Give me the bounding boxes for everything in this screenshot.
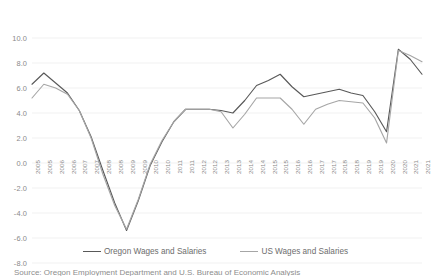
x-tick-label: 2018 <box>353 160 360 174</box>
y-axis: 10.08.06.04.02.00.0-2.0-4.0-6.0-8.0 <box>0 38 30 263</box>
legend-label: Oregon Wages and Salaries <box>104 247 207 256</box>
y-tick-label: 0.0 <box>16 159 27 168</box>
legend-swatch <box>240 251 258 252</box>
y-tick-label: 4.0 <box>16 109 27 118</box>
caption-strip: Source: Oregon Employment Department and… <box>0 269 431 276</box>
x-tick-label: 2012 <box>211 160 218 174</box>
x-tick-label: 2020 <box>401 160 408 174</box>
x-tick-label: 2016 <box>294 160 301 174</box>
x-tick-label: 2016 <box>306 160 313 174</box>
x-axis: 2005200520062006200720072008200820092009… <box>32 160 422 200</box>
series-lines <box>32 38 422 263</box>
x-tick-label: 2020 <box>389 160 396 174</box>
x-tick-label: 2005 <box>46 160 53 174</box>
y-tick-label: -8.0 <box>14 259 27 268</box>
x-tick-label: 2009 <box>141 160 148 174</box>
source-caption: Source: Oregon Employment Department and… <box>14 269 300 276</box>
x-tick-label: 2008 <box>117 160 124 174</box>
x-tick-label: 2010 <box>152 160 159 174</box>
series-line <box>32 51 422 230</box>
x-tick-label: 2021 <box>412 160 419 174</box>
x-tick-label: 2011 <box>176 160 183 174</box>
line-chart: 10.08.06.04.02.00.0-2.0-4.0-6.0-8.0 2005… <box>0 0 431 276</box>
y-tick-label: 8.0 <box>16 59 27 68</box>
x-tick-label: 2018 <box>341 160 348 174</box>
x-tick-label: 2011 <box>188 160 195 174</box>
x-tick-label: 2012 <box>200 160 207 174</box>
x-tick-label: 2007 <box>81 160 88 174</box>
x-tick-label: 2014 <box>247 160 254 174</box>
legend-label: US Wages and Salaries <box>261 247 348 256</box>
x-tick-label: 2017 <box>318 160 325 174</box>
x-tick-label: 2019 <box>365 160 372 174</box>
x-tick-label: 2013 <box>223 160 230 174</box>
x-tick-label: 2006 <box>70 160 77 174</box>
legend-entry[interactable]: Oregon Wages and Salaries <box>83 247 207 256</box>
chart-legend: Oregon Wages and SalariesUS Wages and Sa… <box>0 247 431 256</box>
x-tick-label: 2013 <box>235 160 242 174</box>
legend-swatch <box>83 251 101 252</box>
y-tick-label: -4.0 <box>14 209 27 218</box>
y-tick-label: -6.0 <box>14 234 27 243</box>
x-tick-label: 2015 <box>271 160 278 174</box>
x-tick-label: 2010 <box>164 160 171 174</box>
x-tick-label: 2007 <box>93 160 100 174</box>
x-tick-label: 2021 <box>424 160 431 174</box>
y-tick-label: -2.0 <box>14 184 27 193</box>
y-tick-label: 2.0 <box>16 134 27 143</box>
x-tick-label: 2019 <box>377 160 384 174</box>
x-tick-label: 2015 <box>282 160 289 174</box>
x-tick-label: 2008 <box>105 160 112 174</box>
y-tick-label: 6.0 <box>16 84 27 93</box>
x-tick-label: 2009 <box>129 160 136 174</box>
plot-area <box>32 38 422 263</box>
series-line <box>32 49 422 230</box>
legend-entry[interactable]: US Wages and Salaries <box>240 247 348 256</box>
x-tick-label: 2017 <box>330 160 337 174</box>
x-tick-label: 2006 <box>58 160 65 174</box>
x-tick-label: 2014 <box>259 160 266 174</box>
y-tick-label: 10.0 <box>12 34 27 43</box>
x-tick-label: 2005 <box>34 160 41 174</box>
